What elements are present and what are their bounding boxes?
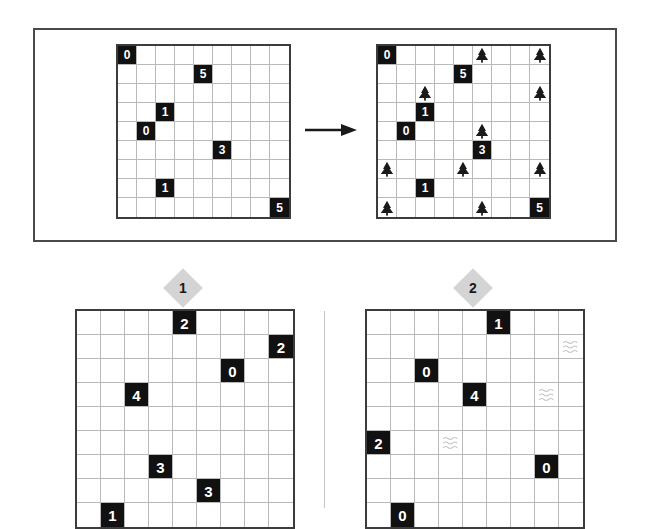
- empty-cell[interactable]: [367, 311, 391, 335]
- water-cell[interactable]: [439, 431, 463, 455]
- empty-cell[interactable]: [149, 383, 173, 407]
- empty-cell[interactable]: [415, 479, 439, 503]
- empty-cell[interactable]: [391, 359, 415, 383]
- clue-cell[interactable]: 1: [156, 179, 175, 198]
- empty-cell[interactable]: [397, 46, 416, 65]
- empty-cell[interactable]: [463, 335, 487, 359]
- empty-cell[interactable]: [118, 160, 137, 179]
- empty-cell[interactable]: [232, 141, 251, 160]
- empty-cell[interactable]: [197, 455, 221, 479]
- empty-cell[interactable]: [416, 160, 435, 179]
- empty-cell[interactable]: [125, 455, 149, 479]
- empty-cell[interactable]: [397, 65, 416, 84]
- empty-cell[interactable]: [213, 65, 232, 84]
- empty-cell[interactable]: [245, 455, 269, 479]
- empty-cell[interactable]: [435, 179, 454, 198]
- empty-cell[interactable]: [232, 160, 251, 179]
- empty-cell[interactable]: [530, 141, 549, 160]
- empty-cell[interactable]: [194, 198, 213, 217]
- empty-cell[interactable]: [473, 84, 492, 103]
- empty-cell[interactable]: [463, 407, 487, 431]
- empty-cell[interactable]: [101, 359, 125, 383]
- empty-cell[interactable]: [530, 65, 549, 84]
- empty-cell[interactable]: [511, 479, 535, 503]
- empty-cell[interactable]: [435, 160, 454, 179]
- empty-cell[interactable]: [270, 84, 289, 103]
- empty-cell[interactable]: [101, 383, 125, 407]
- empty-cell[interactable]: [435, 103, 454, 122]
- empty-cell[interactable]: [194, 84, 213, 103]
- empty-cell[interactable]: [197, 359, 221, 383]
- example-solution-grid[interactable]: 0510315: [376, 44, 551, 219]
- empty-cell[interactable]: [77, 359, 101, 383]
- clue-cell[interactable]: 3: [197, 479, 221, 503]
- empty-cell[interactable]: [511, 65, 530, 84]
- empty-cell[interactable]: [269, 383, 293, 407]
- empty-cell[interactable]: [435, 65, 454, 84]
- empty-cell[interactable]: [473, 65, 492, 84]
- empty-cell[interactable]: [245, 407, 269, 431]
- empty-cell[interactable]: [367, 335, 391, 359]
- empty-cell[interactable]: [492, 141, 511, 160]
- empty-cell[interactable]: [397, 103, 416, 122]
- empty-cell[interactable]: [194, 122, 213, 141]
- empty-cell[interactable]: [118, 141, 137, 160]
- empty-cell[interactable]: [149, 335, 173, 359]
- empty-cell[interactable]: [213, 179, 232, 198]
- empty-cell[interactable]: [492, 84, 511, 103]
- empty-cell[interactable]: [378, 141, 397, 160]
- empty-cell[interactable]: [118, 65, 137, 84]
- empty-cell[interactable]: [487, 455, 511, 479]
- empty-cell[interactable]: [511, 84, 530, 103]
- empty-cell[interactable]: [492, 103, 511, 122]
- empty-cell[interactable]: [511, 103, 530, 122]
- empty-cell[interactable]: [101, 431, 125, 455]
- empty-cell[interactable]: [118, 103, 137, 122]
- empty-cell[interactable]: [559, 383, 583, 407]
- empty-cell[interactable]: [511, 160, 530, 179]
- empty-cell[interactable]: [137, 103, 156, 122]
- empty-cell[interactable]: [492, 65, 511, 84]
- empty-cell[interactable]: [435, 122, 454, 141]
- clue-cell[interactable]: 1: [487, 311, 511, 335]
- empty-cell[interactable]: [270, 122, 289, 141]
- empty-cell[interactable]: [439, 311, 463, 335]
- empty-cell[interactable]: [416, 141, 435, 160]
- empty-cell[interactable]: [511, 179, 530, 198]
- empty-cell[interactable]: [439, 479, 463, 503]
- empty-cell[interactable]: [378, 84, 397, 103]
- empty-cell[interactable]: [511, 335, 535, 359]
- empty-cell[interactable]: [251, 103, 270, 122]
- empty-cell[interactable]: [194, 103, 213, 122]
- empty-cell[interactable]: [197, 311, 221, 335]
- empty-cell[interactable]: [101, 479, 125, 503]
- clue-cell[interactable]: 2: [173, 311, 197, 335]
- empty-cell[interactable]: [415, 455, 439, 479]
- empty-cell[interactable]: [269, 455, 293, 479]
- empty-cell[interactable]: [511, 455, 535, 479]
- empty-cell[interactable]: [125, 311, 149, 335]
- empty-cell[interactable]: [391, 335, 415, 359]
- empty-cell[interactable]: [149, 311, 173, 335]
- clue-cell[interactable]: 3: [213, 141, 232, 160]
- empty-cell[interactable]: [118, 179, 137, 198]
- empty-cell[interactable]: [511, 359, 535, 383]
- clue-cell[interactable]: 1: [101, 503, 125, 527]
- clue-cell[interactable]: 0: [535, 455, 559, 479]
- empty-cell[interactable]: [173, 359, 197, 383]
- empty-cell[interactable]: [492, 46, 511, 65]
- empty-cell[interactable]: [175, 65, 194, 84]
- empty-cell[interactable]: [463, 479, 487, 503]
- empty-cell[interactable]: [125, 503, 149, 527]
- empty-cell[interactable]: [416, 122, 435, 141]
- empty-cell[interactable]: [137, 84, 156, 103]
- empty-cell[interactable]: [416, 46, 435, 65]
- empty-cell[interactable]: [173, 503, 197, 527]
- empty-cell[interactable]: [221, 383, 245, 407]
- empty-cell[interactable]: [232, 198, 251, 217]
- empty-cell[interactable]: [367, 383, 391, 407]
- empty-cell[interactable]: [156, 65, 175, 84]
- empty-cell[interactable]: [439, 407, 463, 431]
- empty-cell[interactable]: [397, 84, 416, 103]
- water-cell[interactable]: [559, 335, 583, 359]
